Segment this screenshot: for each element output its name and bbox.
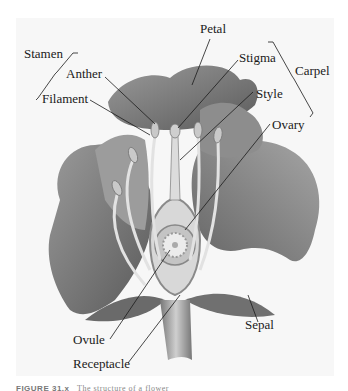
label-style: Style	[256, 87, 283, 100]
label-ovary: Ovary	[272, 118, 305, 131]
petal-upper-right	[200, 103, 263, 158]
label-sepal: Sepal	[245, 318, 274, 331]
style-shape	[170, 135, 180, 200]
caption-label: FIGURE 31.x	[16, 384, 70, 391]
label-petal: Petal	[200, 22, 226, 35]
stigma-shape	[170, 124, 180, 138]
label-ovule: Ovule	[73, 333, 105, 346]
label-carpel: Carpel	[295, 64, 330, 77]
label-stigma: Stigma	[239, 51, 276, 64]
label-stamen: Stamen	[24, 47, 63, 60]
figure-caption: FIGURE 31.x The structure of a flower	[16, 384, 169, 391]
label-anther: Anther	[66, 67, 102, 80]
petal-right	[192, 141, 320, 262]
label-filament: Filament	[42, 92, 88, 105]
caption-text: The structure of a flower	[77, 384, 169, 391]
stem	[160, 300, 192, 360]
sepal-right	[185, 294, 275, 317]
label-receptacle: Receptacle	[73, 357, 130, 370]
